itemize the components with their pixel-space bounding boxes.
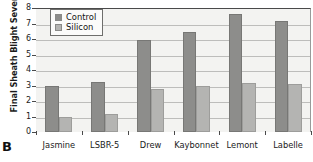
- y-tick-mark: [32, 117, 36, 118]
- figure-panel-b: Final Sheath Blight Severity B 012345678…: [0, 0, 313, 162]
- x-tick-label-labelle: Labelle: [273, 140, 303, 150]
- x-tick-label-lemont: Lemont: [227, 140, 258, 150]
- x-tick-mark: [174, 131, 175, 135]
- x-tick-label-lsbr-5: LSBR-5: [90, 140, 119, 150]
- bar-control-labelle: [275, 21, 289, 132]
- y-tick-mark: [32, 86, 36, 87]
- x-tick-mark: [265, 131, 266, 135]
- bar-silicon-labelle: [288, 84, 302, 132]
- x-tick-mark: [82, 131, 83, 135]
- y-tick-mark: [32, 70, 36, 71]
- y-tick-label: 6: [15, 34, 31, 43]
- bar-control-drew: [137, 40, 151, 132]
- y-tick-label: 2: [15, 96, 31, 105]
- bar-silicon-drew: [151, 89, 165, 132]
- x-tick-mark: [36, 131, 37, 135]
- x-tick-label-drew: Drew: [140, 140, 162, 150]
- y-tick-label: 0: [15, 127, 31, 136]
- legend-label: Silicon: [66, 23, 93, 31]
- y-tick-label: 5: [15, 50, 31, 59]
- legend-swatch-icon: [55, 14, 62, 21]
- y-tick-mark: [32, 39, 36, 40]
- legend-item-control: Control: [55, 13, 96, 21]
- y-tick-label: 8: [15, 3, 31, 12]
- x-tick-mark: [128, 131, 129, 135]
- x-tick-label-kaybonnet: Kaybonnet: [174, 140, 219, 150]
- y-tick-mark: [32, 101, 36, 102]
- y-tick-label: 1: [15, 112, 31, 121]
- bar-control-lemont: [229, 14, 243, 132]
- bar-silicon-jasmine: [59, 117, 73, 133]
- chart-legend: ControlSilicon: [50, 9, 103, 36]
- panel-letter: B: [2, 139, 12, 154]
- legend-label: Control: [66, 13, 96, 21]
- bar-control-lsbr-5: [91, 82, 105, 132]
- bar-silicon-lsbr-5: [105, 114, 119, 132]
- bar-control-kaybonnet: [183, 32, 197, 132]
- bar-control-jasmine: [45, 86, 59, 133]
- y-tick-label: 4: [15, 65, 31, 74]
- legend-swatch-icon: [55, 24, 62, 31]
- y-tick-label: 7: [15, 19, 31, 28]
- y-tick-label: 3: [15, 81, 31, 90]
- y-tick-mark: [32, 8, 36, 9]
- bar-silicon-kaybonnet: [196, 86, 210, 133]
- x-tick-mark: [219, 131, 220, 135]
- legend-item-silicon: Silicon: [55, 23, 96, 31]
- y-tick-mark: [32, 55, 36, 56]
- x-tick-mark: [311, 131, 312, 135]
- y-tick-mark: [32, 24, 36, 25]
- x-tick-label-jasmine: Jasmine: [43, 140, 76, 150]
- bar-silicon-lemont: [242, 83, 256, 132]
